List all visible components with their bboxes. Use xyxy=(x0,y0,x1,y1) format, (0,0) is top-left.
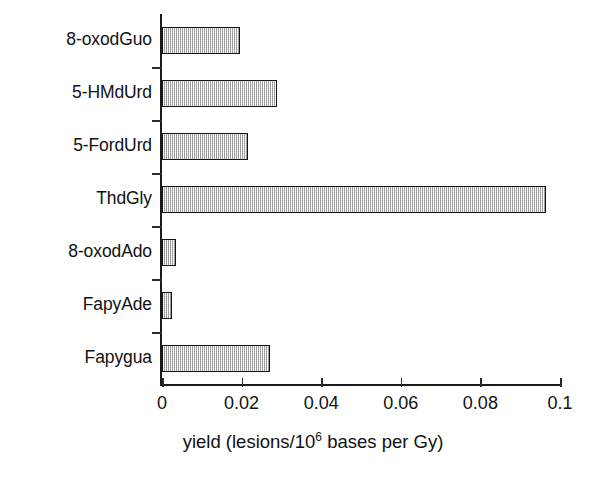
value-tick-label: 0 xyxy=(132,392,192,414)
category-tick xyxy=(152,173,162,175)
x-axis-title-prefix: yield (lesions/10 xyxy=(183,431,316,452)
bar xyxy=(162,27,240,54)
category-label: ThdGly xyxy=(2,190,152,208)
category-label: FapyAde xyxy=(2,296,152,314)
bar xyxy=(162,345,270,372)
bar xyxy=(162,239,176,266)
value-tick xyxy=(162,378,164,387)
value-tick xyxy=(242,378,244,387)
value-tick-label: 0.02 xyxy=(212,392,272,414)
category-tick xyxy=(152,226,162,228)
bar xyxy=(162,80,277,107)
category-label: 5-HMdUrd xyxy=(2,84,152,102)
category-tick xyxy=(152,279,162,281)
value-tick-label: 0.1 xyxy=(530,392,590,414)
bar-row xyxy=(162,173,560,226)
value-tick xyxy=(321,378,323,387)
value-tick xyxy=(560,378,562,387)
category-label: 8-oxodGuo xyxy=(2,31,152,49)
plot-area xyxy=(162,14,560,385)
value-tick xyxy=(480,378,482,387)
bar-row xyxy=(162,226,560,279)
x-axis-title-suffix: bases per Gy) xyxy=(322,431,443,452)
category-tick xyxy=(152,332,162,334)
bar-row xyxy=(162,332,560,385)
category-tick xyxy=(152,67,162,69)
bar-row xyxy=(162,120,560,173)
bar-chart-figure: 8-oxodGuo5-HMdUrd5-FordUrdThdGly8-oxodAd… xyxy=(0,0,604,487)
bar-row xyxy=(162,67,560,120)
category-tick xyxy=(152,120,162,122)
x-axis-title-superscript: 6 xyxy=(315,430,322,444)
category-label: 8-oxodAdo xyxy=(2,243,152,261)
x-axis-title: yield (lesions/106 bases per Gy) xyxy=(0,430,604,454)
bar xyxy=(162,292,172,319)
value-tick-label: 0.06 xyxy=(371,392,431,414)
bar xyxy=(162,186,546,213)
bar xyxy=(162,133,248,160)
category-label: Fapygua xyxy=(2,349,152,367)
category-axis-labels: 8-oxodGuo5-HMdUrd5-FordUrdThdGly8-oxodAd… xyxy=(0,14,152,385)
value-tick xyxy=(401,378,403,387)
bar-row xyxy=(162,279,560,332)
bar-row xyxy=(162,14,560,67)
value-tick-label: 0.04 xyxy=(291,392,351,414)
category-label: 5-FordUrd xyxy=(2,137,152,155)
value-tick-label: 0.08 xyxy=(450,392,510,414)
